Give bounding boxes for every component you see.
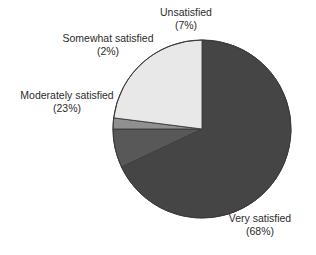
label-somewhat-satisfied: Somewhat satisfied (2%) bbox=[50, 32, 166, 58]
label-moderately-satisfied-percent: (23%) bbox=[8, 102, 126, 115]
label-very-satisfied-percent: (68%) bbox=[216, 225, 304, 238]
label-very-satisfied: Very satisfied (68%) bbox=[216, 212, 304, 238]
label-unsatisfied-percent: (7%) bbox=[148, 19, 224, 32]
label-unsatisfied-text: Unsatisfied bbox=[148, 6, 224, 19]
label-unsatisfied: Unsatisfied (7%) bbox=[148, 6, 224, 32]
pie-chart-figure: Unsatisfied (7%) Somewhat satisfied (2%)… bbox=[0, 0, 316, 255]
label-moderately-satisfied: Moderately satisfied (23%) bbox=[8, 89, 126, 115]
label-somewhat-satisfied-text: Somewhat satisfied bbox=[50, 32, 166, 45]
label-somewhat-satisfied-percent: (2%) bbox=[50, 45, 166, 58]
pie-slices bbox=[113, 40, 291, 218]
label-very-satisfied-text: Very satisfied bbox=[216, 212, 304, 225]
label-moderately-satisfied-text: Moderately satisfied bbox=[8, 89, 126, 102]
